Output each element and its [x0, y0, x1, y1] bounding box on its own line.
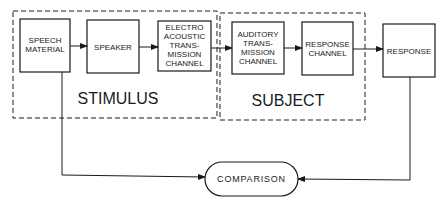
auditory-line-3: MISSION	[241, 48, 275, 57]
block-speech-material: SPEECH MATERIAL	[20, 19, 70, 72]
electro-acoustic-line-1: ELECTRO	[166, 23, 204, 32]
block-electro-acoustic: ELECTRO ACOUSTIC TRANS- MISSION CHANNEL	[158, 21, 211, 71]
electro-acoustic-line-2: ACOUSTIC	[164, 32, 206, 41]
comparison-node: COMPARISON	[205, 162, 298, 196]
subject-label: SUBJECT	[252, 92, 325, 109]
block-diagram: STIMULUS SUBJECT SPEECH MATERIAL SPEAKER…	[0, 0, 448, 204]
auditory-line-2: TRANS-	[243, 39, 273, 48]
comparison-label: COMPARISON	[217, 174, 286, 184]
block-auditory: AUDITORY TRANS- MISSION CHANNEL	[232, 22, 284, 74]
speaker-line-1: SPEAKER	[94, 43, 132, 52]
block-response-channel: RESPONSE CHANNEL	[302, 22, 353, 75]
electro-acoustic-line-4: MISSION	[168, 50, 202, 59]
stimulus-label: STIMULUS	[78, 90, 159, 107]
response-channel-line-1: RESPONSE	[305, 40, 349, 49]
electro-acoustic-line-5: CHANNEL	[165, 59, 204, 68]
response-line-1: RESPONSE	[387, 47, 431, 56]
auditory-line-1: AUDITORY	[237, 30, 279, 39]
speech-material-line-2: MATERIAL	[25, 45, 65, 54]
response-channel-line-2: CHANNEL	[308, 49, 347, 58]
block-response: RESPONSE	[383, 24, 435, 77]
speech-material-line-1: SPEECH	[29, 36, 62, 45]
arrow-speech-to-comparison	[62, 72, 205, 177]
block-speaker: SPEAKER	[87, 20, 139, 73]
electro-acoustic-line-3: TRANS-	[170, 41, 200, 50]
auditory-line-4: CHANNEL	[239, 57, 278, 66]
